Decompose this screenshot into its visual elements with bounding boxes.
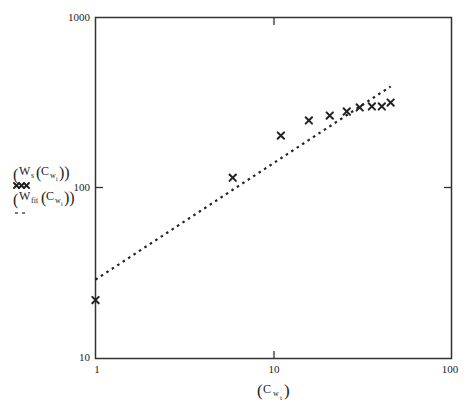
chart: 1000 100 10 1 10 100 ( C w i ) ( W s ( C…: [0, 0, 466, 413]
svg-text:C: C: [263, 382, 271, 396]
y-tick-label-100: 100: [74, 181, 91, 193]
svg-text:w: w: [273, 389, 279, 398]
y-tick-label-1000: 1000: [68, 11, 91, 23]
fit-line: [96, 86, 391, 279]
data-point-marker: [387, 99, 393, 105]
x-tick-label-100: 100: [442, 363, 459, 375]
data-point-marker: [230, 174, 236, 180]
svg-text:W: W: [19, 164, 31, 178]
legend-marker-x: [14, 183, 29, 188]
data-point-marker: [369, 103, 375, 109]
plot-frame: [96, 18, 452, 359]
svg-text:W: W: [19, 189, 31, 203]
svg-text:C: C: [41, 164, 49, 178]
svg-text:(: (: [13, 191, 18, 209]
svg-text:(: (: [13, 166, 18, 184]
svg-text:)): )): [59, 164, 70, 182]
svg-text:fit: fit: [31, 196, 39, 205]
svg-text:s: s: [31, 171, 34, 180]
x-axis-label: ( C w i ): [257, 381, 290, 402]
svg-text:C: C: [46, 189, 54, 203]
svg-text:i: i: [56, 176, 58, 182]
data-point-marker: [344, 108, 350, 114]
legend-entry-ws: ( W s ( C w i )): [13, 164, 70, 184]
svg-text:i: i: [280, 394, 282, 402]
svg-text:i: i: [61, 201, 63, 207]
data-point-marker: [306, 117, 312, 123]
legend-entry-wfit: ( W fit ( C w i )): [13, 189, 75, 209]
x-tick-label-1: 1: [94, 363, 100, 375]
legend: ( W s ( C w i )) ( W fit ( C w i )): [13, 164, 75, 213]
axis-ticks: [96, 18, 452, 359]
scatter-points: [92, 99, 394, 303]
svg-text:)): )): [64, 189, 75, 207]
data-point-marker: [379, 103, 385, 109]
y-tick-label-10: 10: [79, 351, 91, 363]
data-point-marker: [327, 112, 333, 118]
data-point-marker: [278, 132, 284, 138]
svg-text:): ): [284, 381, 290, 400]
x-tick-label-10: 10: [269, 363, 281, 375]
